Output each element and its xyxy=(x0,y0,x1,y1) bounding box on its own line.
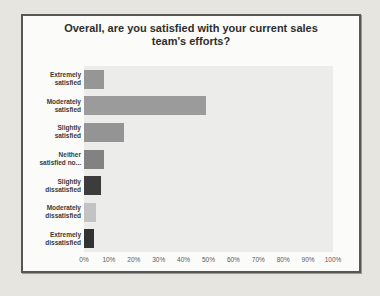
bar-track xyxy=(84,93,333,120)
x-axis-tick-label: 0% xyxy=(79,256,88,263)
bar xyxy=(84,229,94,248)
category-label: Moderatelydissatisfied xyxy=(23,199,84,226)
category-label: Neithersatisfied no... xyxy=(23,146,84,173)
x-axis-tick-label: 90% xyxy=(302,256,315,263)
chart-row: Moderatelydissatisfied xyxy=(23,199,359,226)
bar-track xyxy=(84,119,333,146)
x-axis-tick-label: 20% xyxy=(127,256,140,263)
chart-row: Extremelydissatisfied xyxy=(23,225,359,252)
bar xyxy=(84,96,206,115)
bar xyxy=(84,123,124,142)
chart-row: Neithersatisfied no... xyxy=(23,146,359,173)
x-axis-tick-label: 10% xyxy=(102,256,115,263)
category-label: Slightlysatisfied xyxy=(23,119,84,146)
bar xyxy=(84,176,101,195)
bar xyxy=(84,70,104,89)
x-axis-tick-label: 60% xyxy=(227,256,240,263)
category-label: Extremelydissatisfied xyxy=(23,225,84,252)
chart-row: Slightlydissatisfied xyxy=(23,172,359,199)
category-label: Moderatelysatisfied xyxy=(23,93,84,120)
bar xyxy=(84,150,104,169)
x-axis-tick-label: 30% xyxy=(152,256,165,263)
bar-track xyxy=(84,146,333,173)
scanned-page: Overall, are you satisfied with your cur… xyxy=(0,0,380,296)
category-label: Slightlydissatisfied xyxy=(23,172,84,199)
x-axis: 0%10%20%30%40%50%60%70%80%90%100% xyxy=(84,256,333,266)
bar-track xyxy=(84,172,333,199)
chart-row: Moderatelysatisfied xyxy=(23,93,359,120)
chart-title: Overall, are you satisfied with your cur… xyxy=(23,22,359,47)
chart-row: Extremelysatisfied xyxy=(23,66,359,93)
x-axis-tick-label: 50% xyxy=(202,256,215,263)
chart-row: Slightlysatisfied xyxy=(23,119,359,146)
chart-card: Overall, are you satisfied with your cur… xyxy=(21,14,361,273)
x-axis-tick-label: 70% xyxy=(252,256,265,263)
bar xyxy=(84,203,96,222)
bar-track xyxy=(84,225,333,252)
x-axis-tick-label: 100% xyxy=(325,256,342,263)
bar-track xyxy=(84,66,333,93)
bar-track xyxy=(84,199,333,226)
plot-area: ExtremelysatisfiedModeratelysatisfiedSli… xyxy=(23,66,359,252)
category-label: Extremelysatisfied xyxy=(23,66,84,93)
x-axis-tick-label: 80% xyxy=(277,256,290,263)
x-axis-tick-label: 40% xyxy=(177,256,190,263)
